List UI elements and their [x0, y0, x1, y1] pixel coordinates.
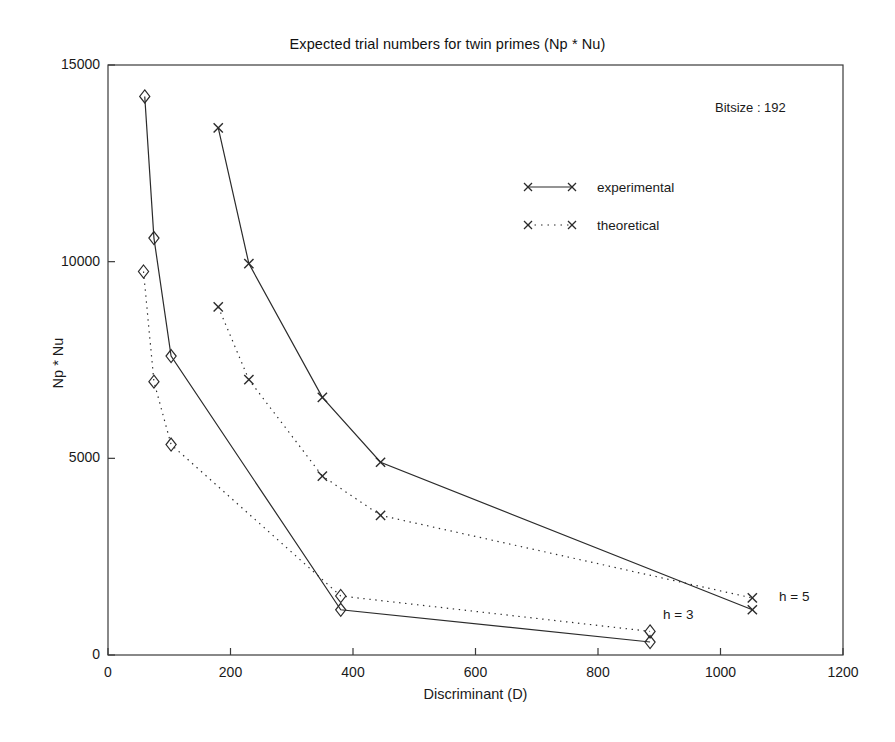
- series-experimental-h--3: [140, 90, 655, 649]
- data-point-marker: [244, 375, 253, 384]
- legend-glyphs: [524, 183, 576, 229]
- data-point-marker: [376, 511, 385, 520]
- series-theoretical-h--3: [138, 265, 655, 638]
- data-point-marker: [214, 302, 223, 311]
- series-line: [218, 307, 752, 598]
- axis-ticks: [108, 65, 843, 655]
- data-point-marker: [318, 471, 327, 480]
- data-point-marker: [318, 393, 327, 402]
- series-line: [145, 96, 650, 642]
- data-point-marker: [748, 605, 757, 614]
- data-point-marker: [244, 259, 253, 268]
- data-point-marker: [376, 458, 385, 467]
- data-point-marker: [166, 438, 176, 451]
- series-line: [144, 272, 651, 632]
- legend-marker-theoretical-left: [524, 221, 532, 229]
- data-point-marker: [748, 593, 757, 602]
- chart-figure: Expected trial numbers for twin primes (…: [0, 0, 895, 742]
- data-point-marker: [149, 375, 159, 388]
- series-layer: [138, 90, 756, 649]
- data-point-marker: [214, 123, 223, 132]
- legend-marker-theoretical-right: [568, 221, 576, 229]
- plot-area: [0, 0, 895, 742]
- plot-frame: [108, 65, 843, 655]
- series-line: [218, 128, 752, 610]
